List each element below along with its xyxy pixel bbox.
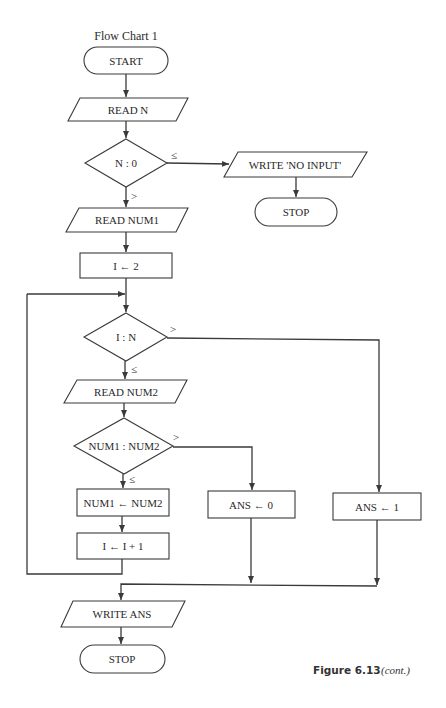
n-zero-decision: N : 0 — [85, 139, 167, 187]
write-no-input-label: WRITE 'NO INPUT' — [249, 159, 342, 171]
figure-caption-number: Figure 6.13 — [313, 664, 381, 676]
stop-terminal-1: STOP — [255, 198, 337, 226]
assign-num1-label: NUM1 ← NUM2 — [84, 497, 163, 509]
read-n-label: READ N — [108, 104, 149, 116]
init-i-process: I ← 2 — [80, 253, 172, 278]
stop-terminal-2: STOP — [80, 645, 165, 673]
n-zero-label: N : 0 — [115, 157, 138, 169]
ans-one-label: ANS ← 1 — [355, 501, 399, 513]
assign-num1-process: NUM1 ← NUM2 — [77, 489, 169, 516]
compare-decision: NUM1 : NUM2 — [74, 418, 173, 474]
stop-1-label: STOP — [283, 206, 310, 218]
cond-n-gt: > — [131, 190, 137, 202]
stop-2-label: STOP — [109, 653, 136, 665]
increment-i-label: I ← I + 1 — [102, 540, 143, 552]
merge-line — [121, 584, 377, 600]
write-ans-io: WRITE ANS — [61, 601, 185, 627]
write-ans-label: WRITE ANS — [93, 608, 152, 620]
init-i-label: I ← 2 — [113, 260, 139, 272]
cond-i-gt: > — [170, 323, 176, 335]
read-num2-io: READ NUM2 — [64, 380, 187, 403]
flowchart-canvas: Flow Chart 1 START READ N N : 0 ≤ > WRIT… — [0, 0, 446, 708]
ans-zero-process: ANS ← 0 — [208, 491, 295, 518]
cond-i-le: ≤ — [131, 363, 137, 375]
flowchart-title: Flow Chart 1 — [94, 29, 157, 43]
increment-i-process: I ← I + 1 — [77, 533, 169, 559]
start-terminal: START — [84, 47, 168, 74]
figure-caption-note: (cont.) — [381, 664, 410, 677]
read-num2-label: READ NUM2 — [94, 386, 158, 398]
ans-one-process: ANS ← 1 — [333, 493, 421, 520]
cond-cmp-gt: > — [173, 431, 179, 443]
ans-zero-label: ANS ← 0 — [229, 499, 274, 511]
line-cmp-gt-to-ans-zero — [173, 447, 252, 490]
start-label: START — [109, 55, 143, 67]
compare-label: NUM1 : NUM2 — [89, 440, 160, 452]
write-no-input-io: WRITE 'NO INPUT' — [224, 152, 367, 177]
i-n-label: I : N — [116, 331, 136, 343]
read-num1-label: READ NUM1 — [95, 214, 159, 226]
cond-n-le: ≤ — [171, 149, 177, 161]
read-n-io: READ N — [68, 98, 188, 121]
arrow-n-le-to-write — [167, 163, 229, 164]
i-n-decision: I : N — [84, 313, 167, 361]
cond-cmp-le: ≤ — [129, 473, 135, 485]
read-num1-io: READ NUM1 — [66, 208, 188, 232]
line-i-gt-to-ans-one — [167, 338, 379, 492]
